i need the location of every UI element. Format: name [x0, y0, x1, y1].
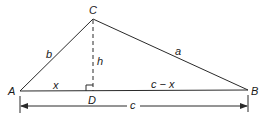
triangle-diagram: A B C D b a h x c − x c [0, 0, 263, 125]
side-label-c: c [130, 99, 136, 111]
vertex-label-a: A [7, 85, 15, 97]
side-label-a: a [175, 45, 181, 57]
vertex-label-d: D [88, 94, 96, 106]
right-angle-marker [86, 85, 93, 91]
side-label-h: h [97, 55, 103, 67]
side-label-x: x [52, 79, 59, 91]
vertex-label-b: B [251, 85, 258, 97]
vertex-label-c: C [89, 4, 97, 16]
side-label-c-minus-x: c − x [151, 78, 175, 90]
side-label-b: b [46, 48, 52, 60]
